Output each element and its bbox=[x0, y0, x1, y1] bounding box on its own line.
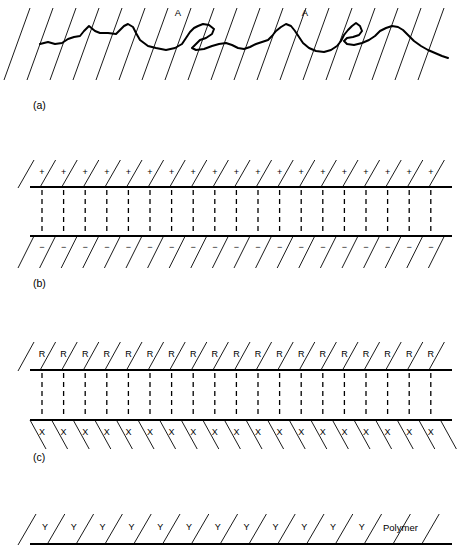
hatch-line bbox=[18, 236, 34, 268]
negative-charge-symbol: − bbox=[212, 242, 217, 252]
negative-charge-symbol: − bbox=[147, 242, 152, 252]
r-group-symbol: R bbox=[39, 349, 46, 359]
y-group-symbol: Y bbox=[215, 522, 221, 532]
hatch-line bbox=[335, 514, 353, 545]
x-group-symbol: X bbox=[82, 427, 88, 437]
r-group-symbol: R bbox=[60, 349, 67, 359]
panel-d-interdiffusion: YYYYYYYYYYYY Polymer bbox=[18, 514, 452, 545]
positive-charge-symbol: + bbox=[342, 167, 347, 177]
x-group-symbol: X bbox=[125, 427, 131, 437]
negative-charge-symbol: − bbox=[255, 242, 260, 252]
positive-charge-symbol: + bbox=[320, 167, 325, 177]
positive-charge-symbol: + bbox=[428, 167, 433, 177]
negative-charge-symbol: − bbox=[385, 242, 390, 252]
hatch-line bbox=[364, 514, 382, 545]
r-group-symbol: R bbox=[320, 349, 327, 359]
x-group-symbol: X bbox=[363, 427, 369, 437]
panel-label-a: (a) bbox=[33, 99, 46, 111]
y-group-symbol: Y bbox=[71, 522, 77, 532]
y-group-symbol: Y bbox=[128, 522, 134, 532]
x-group-symbol: X bbox=[147, 427, 153, 437]
y-group-symbol: Y bbox=[157, 522, 163, 532]
r-group-symbol: R bbox=[233, 349, 240, 359]
polymer-annotation-label: Polymer bbox=[383, 522, 418, 533]
hatch-line bbox=[96, 8, 122, 80]
hatch-line bbox=[303, 8, 329, 80]
panel-a-marker-labels: AA bbox=[175, 7, 309, 18]
interface-marker-a: A bbox=[175, 7, 182, 18]
hatch-line bbox=[162, 514, 180, 545]
hatch-line bbox=[440, 420, 456, 449]
r-group-symbol: R bbox=[168, 349, 175, 359]
negative-charge-symbol: − bbox=[299, 242, 304, 252]
positive-charge-symbol: + bbox=[169, 167, 174, 177]
y-group-symbol: Y bbox=[359, 522, 365, 532]
r-group-symbol: R bbox=[190, 349, 197, 359]
positive-charge-symbol: + bbox=[385, 167, 390, 177]
panel-a-rough-interface: AA (a) bbox=[4, 7, 448, 111]
x-group-symbol: X bbox=[298, 427, 304, 437]
hatch-line bbox=[418, 8, 444, 80]
y-group-symbol: Y bbox=[272, 522, 278, 532]
negative-charge-symbol: − bbox=[407, 242, 412, 252]
negative-charge-symbol: − bbox=[169, 242, 174, 252]
hatch-line bbox=[188, 8, 214, 80]
hatch-line bbox=[133, 514, 151, 545]
y-group-symbol: Y bbox=[301, 522, 307, 532]
hatch-line bbox=[277, 514, 295, 545]
panel-label-b: (b) bbox=[33, 277, 46, 289]
r-group-symbol: R bbox=[384, 349, 391, 359]
hatch-line bbox=[191, 514, 209, 545]
x-group-symbol: X bbox=[169, 427, 175, 437]
x-group-symbol: X bbox=[255, 427, 261, 437]
positive-charge-symbol: + bbox=[39, 167, 44, 177]
x-group-symbol: X bbox=[61, 427, 67, 437]
x-group-symbol: X bbox=[406, 427, 412, 437]
positive-charge-symbol: + bbox=[363, 167, 368, 177]
hatch-line bbox=[421, 514, 439, 545]
negative-charge-symbol: − bbox=[61, 242, 66, 252]
panel-c-x-group-symbols: XXXXXXXXXXXXXXXXXXX bbox=[39, 427, 434, 437]
r-group-symbol: R bbox=[341, 349, 348, 359]
r-group-symbol: R bbox=[298, 349, 305, 359]
r-group-symbol: R bbox=[125, 349, 132, 359]
hatch-line bbox=[257, 8, 283, 80]
negative-charge-symbol: − bbox=[342, 242, 347, 252]
x-group-symbol: X bbox=[341, 427, 347, 437]
y-group-symbol: Y bbox=[100, 522, 106, 532]
hatch-line bbox=[165, 8, 191, 80]
negative-charge-symbol: − bbox=[277, 242, 282, 252]
hatch-line bbox=[76, 514, 94, 545]
x-group-symbol: X bbox=[190, 427, 196, 437]
interface-marker-a: A bbox=[302, 7, 309, 18]
r-group-symbol: R bbox=[406, 349, 413, 359]
hatch-line bbox=[248, 514, 266, 545]
negative-charge-symbol: − bbox=[104, 242, 109, 252]
panel-c-bottom-hatch-lines bbox=[30, 420, 456, 449]
positive-charge-symbol: + bbox=[234, 167, 239, 177]
x-group-symbol: X bbox=[104, 427, 110, 437]
hatch-line bbox=[372, 8, 398, 80]
positive-charge-symbol: + bbox=[191, 167, 196, 177]
diagram-canvas: AA (a) +++++++++++++++++++ −−−−−−−−−−−−−… bbox=[0, 0, 473, 549]
negative-charge-symbol: − bbox=[39, 242, 44, 252]
panel-b-attraction-dashed-lines bbox=[42, 190, 431, 233]
r-group-symbol: R bbox=[212, 349, 219, 359]
x-group-symbol: X bbox=[277, 427, 283, 437]
negative-charge-symbol: − bbox=[363, 242, 368, 252]
r-group-symbol: R bbox=[428, 349, 435, 359]
positive-charge-symbol: + bbox=[407, 167, 412, 177]
positive-charge-symbol: + bbox=[277, 167, 282, 177]
panel-b-electrostatic: +++++++++++++++++++ −−−−−−−−−−−−−−−−−−− … bbox=[18, 160, 452, 289]
x-group-symbol: X bbox=[233, 427, 239, 437]
positive-charge-symbol: + bbox=[126, 167, 131, 177]
hatch-line bbox=[47, 514, 65, 545]
hatch-line bbox=[119, 8, 145, 80]
negative-charge-symbol: − bbox=[428, 242, 433, 252]
hatch-line bbox=[220, 514, 238, 545]
x-group-symbol: X bbox=[320, 427, 326, 437]
x-group-symbol: X bbox=[428, 427, 434, 437]
negative-charge-symbol: − bbox=[126, 242, 131, 252]
hatch-line bbox=[73, 8, 99, 80]
positive-charge-symbol: + bbox=[212, 167, 217, 177]
